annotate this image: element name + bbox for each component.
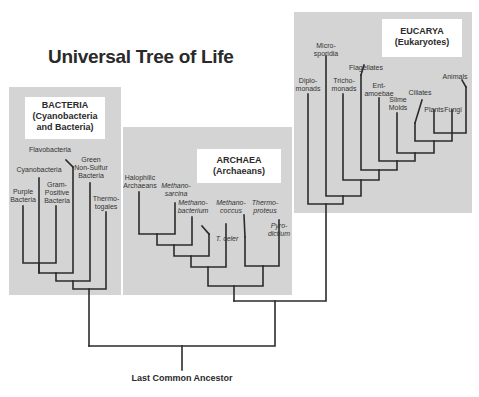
taxon-slime-molds: Slime Molds xyxy=(389,96,408,112)
taxon-methanococcus: Methano- coccus xyxy=(216,199,246,215)
taxon-fungi: Fungi xyxy=(444,106,462,114)
taxon-gram-positive-bacteria: Gram- Positive Bacteria xyxy=(44,181,70,205)
taxon-plants: Plants xyxy=(424,106,443,114)
taxon-cyanobacteria: Cyanobacteria xyxy=(16,166,61,174)
taxon-thermoproteus: Thermo- proteus xyxy=(252,199,278,215)
taxon-purple-bacteria: Purple Bacteria xyxy=(10,188,36,204)
taxon-halophilic-archaeans: Halophilic Archaeans xyxy=(123,174,156,190)
taxon-flavobacteria: Flavobacteria xyxy=(29,146,71,154)
taxon-diplomonads: Diplo- monads xyxy=(296,77,321,93)
taxon-ciliates: Ciliates xyxy=(409,89,432,97)
taxon-animals: Animals xyxy=(443,73,468,81)
taxon-microsporidia: Micro- sporidia xyxy=(314,42,339,58)
taxon-flagellates: Flagellates xyxy=(349,64,383,72)
last-common-ancestor-label: Last Common Ancestor xyxy=(131,373,232,383)
taxon-methanosarcina: Methano- sarcina xyxy=(161,182,191,198)
taxon-trichomonads: Tricho- monads xyxy=(332,77,357,93)
taxon-green-non-sulfur-bacteria: Green Non-Sulfur Bacteria xyxy=(74,156,107,180)
taxon-pyrodictium: Pyro- dictium xyxy=(268,222,290,238)
taxon-methanobacterium: Methano- bacterium xyxy=(178,199,209,215)
taxon-thermotogales: Thermo- togales xyxy=(93,195,119,211)
taxon-t-celer: T. celer xyxy=(216,235,239,243)
